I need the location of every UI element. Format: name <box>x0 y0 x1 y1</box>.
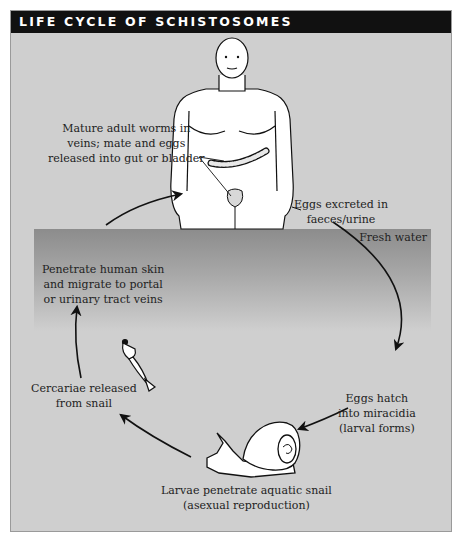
step-hatch-label: Eggs hatch into miracidia (larval forms) <box>338 391 416 436</box>
step-penetrate-line: and migrate to portal <box>42 277 164 292</box>
arrow-to-penetrate <box>76 307 81 378</box>
step-cercariae-label: Cercariae released from snail <box>31 381 137 411</box>
step-penetrate-label: Penetrate human skin and migrate to port… <box>42 262 164 307</box>
step-excretion-line: faeces/urine <box>294 212 388 227</box>
arrow-to-hatch <box>333 222 402 349</box>
snail-icon <box>207 422 300 477</box>
step-adult-line: Mature adult worms in <box>48 121 205 136</box>
step-adult-line: veins; mate and eggs <box>48 136 205 151</box>
diagram-panel: LIFE CYCLE OF SCHISTOSOMES Fresh water <box>10 10 452 532</box>
step-snail-line: (asexual reproduction) <box>161 498 332 513</box>
step-adult-line: released into gut or bladder <box>48 151 205 166</box>
step-cercariae-line: from snail <box>31 396 137 411</box>
step-cercariae-line: Cercariae released <box>31 381 137 396</box>
step-hatch-line: (larval forms) <box>338 421 416 436</box>
step-hatch-line: into miracidia <box>338 406 416 421</box>
step-excretion-line: Eggs excreted in <box>294 197 388 212</box>
step-adult-label: Mature adult worms in veins; mate and eg… <box>48 121 205 166</box>
step-excretion-label: Eggs excreted in faeces/urine <box>294 197 388 227</box>
arrow-to-adult <box>106 194 181 225</box>
step-penetrate-line: or urinary tract veins <box>42 292 164 307</box>
step-penetrate-line: Penetrate human skin <box>42 262 164 277</box>
arrow-to-cercariae <box>121 415 191 457</box>
step-hatch-line: Eggs hatch <box>338 391 416 406</box>
step-snail-line: Larvae penetrate aquatic snail <box>161 483 332 498</box>
step-snail-label: Larvae penetrate aquatic snail (asexual … <box>161 483 332 513</box>
